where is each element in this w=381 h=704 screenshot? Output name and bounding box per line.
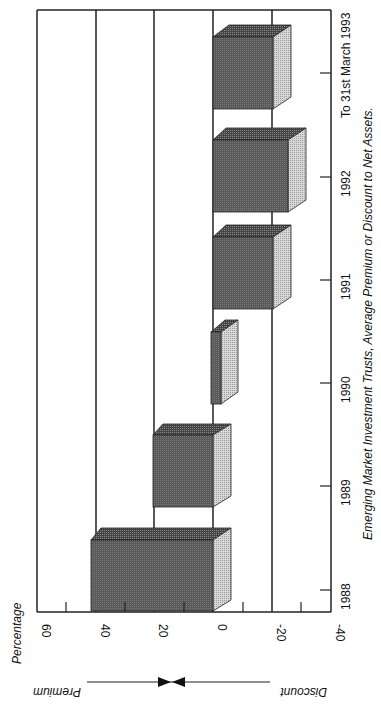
category-1990: 1990 — [339, 376, 353, 403]
category-axis-ticks — [320, 73, 331, 590]
bar-1989 — [153, 424, 231, 507]
y-axis-title: Percentage — [10, 602, 24, 664]
bars — [91, 25, 306, 611]
category-1988: 1988 — [339, 583, 353, 610]
tick-20: 20 — [156, 624, 170, 638]
plot-frame — [37, 10, 331, 612]
chart-title: Emerging Market Investment Trusts, Avera… — [361, 107, 375, 540]
bar-1990 — [211, 320, 238, 404]
value-axis-labels: 60 40 20 0 -20 -40 — [39, 624, 347, 642]
category-labels: 1988 1989 1990 1991 1992 To 31st March 1… — [339, 12, 353, 610]
category-1991: 1991 — [339, 273, 353, 300]
tick-0: 0 — [215, 624, 229, 631]
tick-minus-20: -20 — [274, 624, 288, 642]
category-1993: To 31st March 1993 — [339, 12, 353, 118]
premium-discount-legend: Premium Discount — [33, 677, 327, 699]
tick-minus-40: -40 — [333, 624, 347, 642]
bar-1991 — [213, 225, 291, 309]
chart: 60 40 20 0 -20 -40 Percentage Premium Di… — [0, 0, 381, 704]
tick-60: 60 — [39, 624, 53, 638]
category-1992: 1992 — [339, 170, 353, 197]
bar-1988 — [91, 528, 231, 611]
bar-1992 — [213, 128, 306, 212]
category-1989: 1989 — [339, 479, 353, 506]
bar-1993 — [213, 25, 291, 109]
premium-label: Premium — [33, 685, 81, 699]
tick-40: 40 — [98, 624, 112, 638]
discount-label: Discount — [280, 685, 327, 699]
